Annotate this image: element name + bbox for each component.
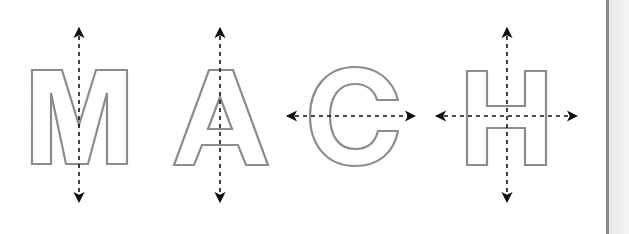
symmetry-diagram: MACH letter symmetry lines	[0, 0, 629, 234]
letter-c	[287, 67, 415, 166]
letter-m	[32, 28, 127, 202]
letter-h	[436, 28, 577, 202]
page-edge-shade	[609, 0, 629, 234]
letter-a	[174, 28, 268, 202]
